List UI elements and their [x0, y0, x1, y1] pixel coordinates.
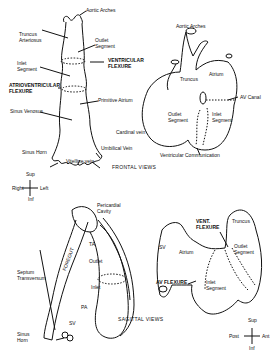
label-inlet-segment-right: Inlet Segment — [212, 112, 232, 123]
label-vent-flexure-sagittal: VENT. FLEXURE — [196, 219, 219, 230]
label-pericardial-cavity: Pericardial Cavity — [97, 203, 121, 214]
heart-development-diagram — [0, 0, 280, 359]
label-septum-transversum: Septum Transversum — [17, 270, 46, 281]
label-inlet-sagittal: Inlet — [91, 285, 100, 291]
label-aortic-arches-left: Aortic Arches — [86, 8, 115, 14]
label-outlet-segment-sagittal: Outlet Segment — [234, 244, 254, 255]
label-cardinal-vein: Cardinal vein — [116, 130, 145, 136]
label-av-canal: AV Canal — [240, 95, 261, 101]
label-truncus-arteriosus: Truncus Arteriosus — [19, 32, 42, 43]
label-atrium-sagittal: Atrium — [179, 250, 193, 256]
label-atrium-right: Atrium — [209, 72, 223, 78]
label-av-flexure-sagittal: AV FLEXURE — [156, 280, 187, 286]
compass-right: Right — [12, 186, 24, 192]
label-umbilical-vein: Umbilical Vein — [101, 146, 132, 152]
label-atrioventricular-flexure: ATRIOVENTRICULAR FLEXURE — [9, 83, 60, 94]
label-primitive-atrium: Primitive Atrium — [98, 98, 133, 104]
compass-inf: Inf — [28, 197, 34, 203]
label-sinus-horn-frontal: Sinus Horn — [22, 150, 47, 156]
frontal-looped-heart-drawing — [142, 28, 238, 155]
sagittal-right-drawing — [157, 210, 262, 344]
compass-sup-sagittal: Sup — [248, 318, 257, 324]
compass-sup: Sup — [26, 172, 35, 178]
label-inlet-segment-sagittal: Inlet Segment — [206, 280, 226, 291]
label-truncus-sagittal: Truncus — [232, 219, 250, 225]
label-sv-sagittal-left: SV — [69, 321, 76, 327]
label-inlet-segment-left: Inlet Segment — [17, 61, 37, 72]
compass-ant: Ant — [262, 334, 270, 340]
sagittal-views-title: SAGITTAL VIEWS — [118, 317, 163, 323]
label-sinus-venosus: Sinus Venosus — [10, 109, 43, 115]
label-ta: TA — [89, 242, 95, 248]
frontal-views-title: FRONTAL VIEWS — [112, 165, 156, 171]
label-sinus-horn-sagittal: Sinus Horn — [17, 332, 30, 343]
label-ventricular-communication: Ventricular Communication — [160, 153, 220, 159]
label-sv-sagittal-right: SV — [159, 245, 166, 251]
label-outlet-segment-right: Outlet Segment — [168, 112, 188, 123]
compass-left: Left — [40, 186, 48, 192]
label-vitelline-vein: Vitelline vein — [66, 159, 94, 165]
label-truncus-right: Truncus — [180, 77, 198, 83]
compass-inf-sagittal: Inf — [249, 346, 255, 352]
label-outlet-sagittal: Outlet — [89, 259, 102, 265]
label-pa: PA — [81, 305, 87, 311]
label-ventricular-flexure: VENTRICULAR FLEXURE — [108, 58, 144, 69]
label-aortic-arches-right: Aortic Arches — [176, 24, 205, 30]
label-outlet-segment-left: Outlet Segment — [95, 38, 115, 49]
compass-post: Post — [229, 334, 239, 340]
